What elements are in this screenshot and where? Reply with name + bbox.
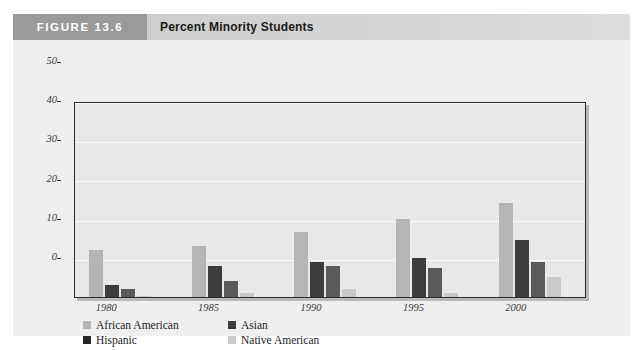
legend-item-hispanic: Hispanic (83, 334, 137, 346)
bar-native-american-1980 (137, 296, 151, 297)
figure-number-label: FIGURE 13.6 (13, 14, 147, 40)
bar-group-1985 (177, 103, 279, 297)
figure-title: Percent Minority Students (160, 14, 314, 40)
legend-item-asian: Asian (228, 319, 268, 331)
bar-african-american-1990 (294, 232, 308, 297)
bar-asian-1995 (412, 258, 426, 297)
y-tick-label-20: 20 (17, 173, 57, 184)
bar-asian-1985 (208, 266, 222, 297)
bar-asian-1980 (105, 285, 119, 297)
bar-native-american-1985 (240, 293, 254, 297)
figure-body-panel: 01020304050 19801985199019952000 African… (13, 40, 630, 336)
bar-african-american-1985 (192, 246, 206, 297)
y-tick-label-10: 10 (17, 212, 57, 223)
figure-number-tab: FIGURE 13.6 (13, 14, 147, 40)
bar-native-american-2000 (547, 277, 561, 297)
bar-african-american-1980 (89, 250, 103, 297)
bar-hispanic-2000 (531, 262, 545, 297)
plot-area (74, 102, 586, 298)
x-tick-label-1990: 1990 (281, 302, 341, 313)
y-tick-label-0: 0 (17, 251, 57, 262)
bar-hispanic-1995 (428, 268, 442, 297)
x-tick-label-1995: 1995 (383, 302, 443, 313)
y-tick-label-30: 30 (17, 133, 57, 144)
bar-group-1995 (382, 103, 484, 297)
legend-swatch-icon (83, 321, 91, 329)
bar-series-container (75, 103, 585, 297)
bar-asian-1990 (310, 262, 324, 297)
bar-group-2000 (485, 103, 587, 297)
bar-native-american-1990 (342, 289, 356, 297)
legend-label: Native American (241, 334, 319, 346)
y-tick-mark-0 (57, 258, 61, 259)
y-tick-mark-10 (57, 219, 61, 220)
bar-native-american-1995 (444, 293, 458, 297)
bar-group-1990 (280, 103, 382, 297)
legend-item-native-american: Native American (228, 334, 319, 346)
x-tick-label-1980: 1980 (76, 302, 136, 313)
legend-swatch-icon (228, 336, 236, 344)
x-tick-label-1985: 1985 (179, 302, 239, 313)
y-tick-mark-40 (57, 101, 61, 102)
bar-asian-2000 (515, 240, 529, 297)
y-tick-mark-50 (57, 62, 61, 63)
bar-hispanic-1985 (224, 281, 238, 297)
bar-african-american-2000 (499, 203, 513, 297)
legend-label: African American (96, 319, 179, 331)
figure-container: FIGURE 13.6 Percent Minority Students 01… (0, 0, 643, 350)
y-tick-label-40: 40 (17, 94, 57, 105)
legend-swatch-icon (83, 336, 91, 344)
bar-african-american-1995 (396, 219, 410, 297)
legend-label: Asian (241, 319, 268, 331)
bar-hispanic-1980 (121, 289, 135, 297)
y-tick-mark-20 (57, 180, 61, 181)
bar-hispanic-1990 (326, 266, 340, 297)
bar-group-1980 (75, 103, 177, 297)
legend-swatch-icon (228, 321, 236, 329)
y-tick-label-50: 50 (17, 55, 57, 66)
y-tick-mark-30 (57, 140, 61, 141)
legend-label: Hispanic (96, 334, 137, 346)
legend-item-african-american: African American (83, 319, 179, 331)
x-tick-label-2000: 2000 (486, 302, 546, 313)
